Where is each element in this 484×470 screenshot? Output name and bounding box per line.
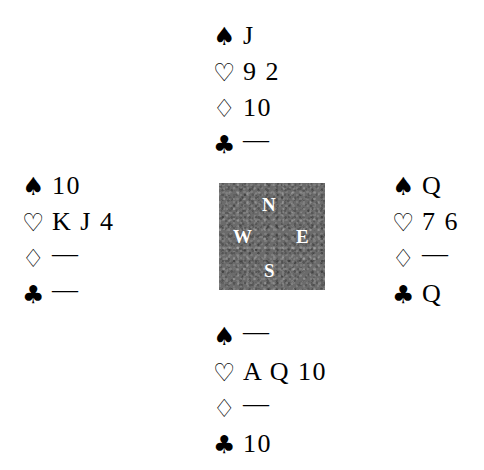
hand-north-spade-row: ♠ J bbox=[213, 18, 280, 54]
hand-east-diamonds: — bbox=[419, 241, 448, 267]
spade-icon: ♠ bbox=[22, 174, 49, 199]
hand-south-diamonds: — bbox=[240, 391, 269, 417]
compass-label-north: N bbox=[262, 195, 276, 214]
hand-south-clubs: 10 bbox=[240, 431, 272, 457]
diamond-icon: ♢ bbox=[213, 96, 240, 121]
hand-west: ♠ 10 ♡ K J 4 ♢ — ♣ — bbox=[22, 168, 114, 312]
hand-south-spade-row: ♠ — bbox=[213, 318, 327, 354]
diamond-icon: ♢ bbox=[22, 246, 49, 271]
hand-south-heart-row: ♡ A Q 10 bbox=[213, 354, 327, 390]
spade-icon: ♠ bbox=[213, 324, 240, 349]
hand-north-heart-row: ♡ 9 2 bbox=[213, 54, 280, 90]
hand-north-hearts: 9 2 bbox=[240, 59, 280, 85]
hand-west-hearts: K J 4 bbox=[49, 209, 114, 235]
hand-east-heart-row: ♡ 7 6 bbox=[392, 204, 459, 240]
hand-west-heart-row: ♡ K J 4 bbox=[22, 204, 114, 240]
hand-north-clubs: — bbox=[240, 127, 269, 153]
hand-south-spades: — bbox=[240, 319, 269, 345]
hand-east-diamond-row: ♢ — bbox=[392, 240, 459, 276]
hand-west-diamonds: — bbox=[49, 241, 78, 267]
heart-icon: ♡ bbox=[22, 210, 49, 235]
heart-icon: ♡ bbox=[213, 60, 240, 85]
heart-icon: ♡ bbox=[213, 360, 240, 385]
hand-east-clubs: Q bbox=[419, 281, 442, 307]
hand-east-spades: Q bbox=[419, 173, 442, 199]
hand-east: ♠ Q ♡ 7 6 ♢ — ♣ Q bbox=[392, 168, 459, 312]
hand-south-diamond-row: ♢ — bbox=[213, 390, 327, 426]
spade-icon: ♠ bbox=[392, 174, 419, 199]
club-icon: ♣ bbox=[22, 282, 49, 307]
spade-icon: ♠ bbox=[213, 24, 240, 49]
hand-west-club-row: ♣ — bbox=[22, 276, 114, 312]
hand-north-club-row: ♣ — bbox=[213, 126, 280, 162]
compass-label-west: W bbox=[233, 227, 252, 246]
hand-east-hearts: 7 6 bbox=[419, 209, 459, 235]
diamond-icon: ♢ bbox=[213, 396, 240, 421]
compass-box: N W E S bbox=[219, 183, 325, 290]
hand-north-diamonds: 10 bbox=[240, 95, 272, 121]
hand-west-diamond-row: ♢ — bbox=[22, 240, 114, 276]
hand-west-clubs: — bbox=[49, 277, 78, 303]
hand-north: ♠ J ♡ 9 2 ♢ 10 ♣ — bbox=[213, 18, 280, 162]
hand-south-club-row: ♣ 10 bbox=[213, 426, 327, 462]
club-icon: ♣ bbox=[213, 132, 240, 157]
compass-label-east: E bbox=[296, 227, 309, 246]
hand-north-spades: J bbox=[240, 23, 255, 49]
diamond-icon: ♢ bbox=[392, 246, 419, 271]
compass-label-south: S bbox=[264, 261, 275, 280]
hand-east-club-row: ♣ Q bbox=[392, 276, 459, 312]
club-icon: ♣ bbox=[392, 282, 419, 307]
hand-south-hearts: A Q 10 bbox=[240, 359, 327, 385]
hand-west-spades: 10 bbox=[49, 173, 81, 199]
hand-east-spade-row: ♠ Q bbox=[392, 168, 459, 204]
club-icon: ♣ bbox=[213, 432, 240, 457]
hand-south: ♠ — ♡ A Q 10 ♢ — ♣ 10 bbox=[213, 318, 327, 462]
hand-north-diamond-row: ♢ 10 bbox=[213, 90, 280, 126]
hand-west-spade-row: ♠ 10 bbox=[22, 168, 114, 204]
heart-icon: ♡ bbox=[392, 210, 419, 235]
